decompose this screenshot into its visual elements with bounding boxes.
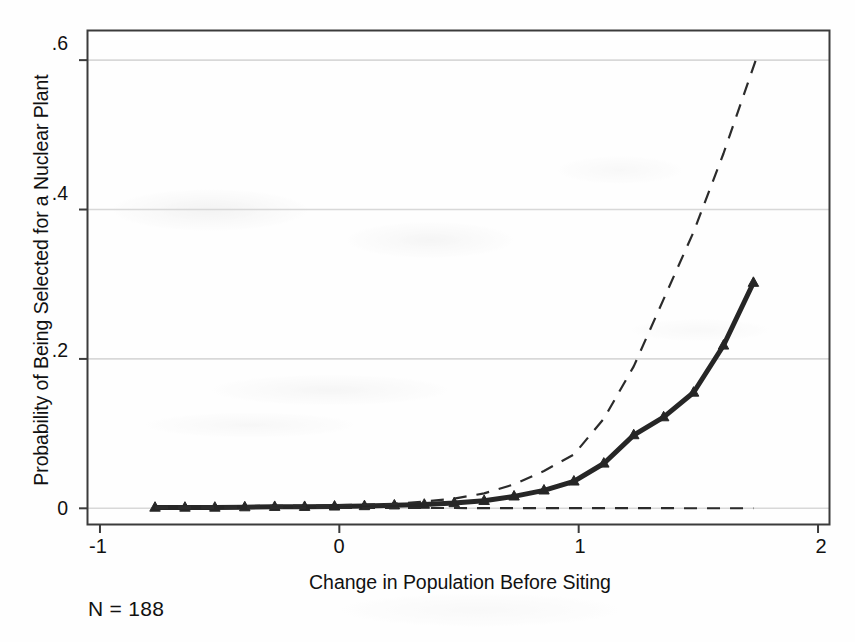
data-series-layer xyxy=(150,60,759,511)
axis-ticks xyxy=(79,60,818,533)
plot-area xyxy=(0,0,855,642)
series-line-0 xyxy=(155,283,753,508)
plot-frame xyxy=(88,31,830,525)
data-point-marker xyxy=(748,277,759,287)
series-line-1 xyxy=(155,60,756,507)
figure-canvas: Probability of Being Selected for a Nucl… xyxy=(0,0,855,642)
gridlines xyxy=(88,60,830,508)
